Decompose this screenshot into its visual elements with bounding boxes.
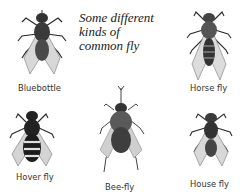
illustration-title: Some different kinds of common fly <box>79 11 189 53</box>
title-line-1: Some different <box>79 11 189 25</box>
house-fly-label: House fly <box>190 178 229 189</box>
house-fly-icon <box>188 108 234 168</box>
title-line-2: kinds of <box>79 25 189 39</box>
bee-fly-icon <box>92 84 150 176</box>
hover-fly-label: Hover fly <box>16 171 54 182</box>
horse-fly-icon <box>184 8 234 80</box>
bee-fly-label: Bee-fly <box>105 181 134 192</box>
horse-fly-label: Horse fly <box>190 82 227 93</box>
bluebottle-fly-icon <box>12 8 72 76</box>
hover-fly-icon <box>6 108 58 168</box>
title-line-3: common fly <box>79 39 189 53</box>
bluebottle-label: Bluebottle <box>18 82 61 93</box>
